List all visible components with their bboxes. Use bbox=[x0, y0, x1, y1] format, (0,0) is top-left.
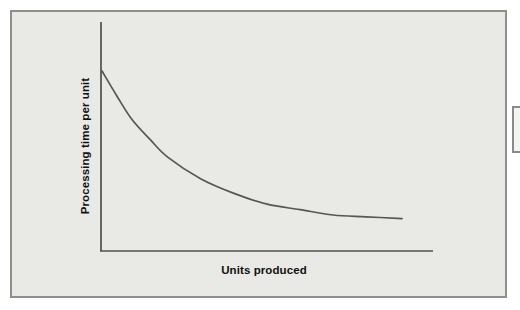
window-edge-fragment[interactable] bbox=[512, 106, 520, 153]
x-axis-title: Units produced bbox=[221, 264, 307, 276]
y-axis-title: Processing time per unit bbox=[79, 78, 91, 215]
screen: { "figure": { "y_axis_label": "Processin… bbox=[0, 0, 520, 310]
figure-canvas: Processing time per unit Units produced bbox=[0, 0, 520, 310]
learning-curve bbox=[102, 71, 402, 219]
